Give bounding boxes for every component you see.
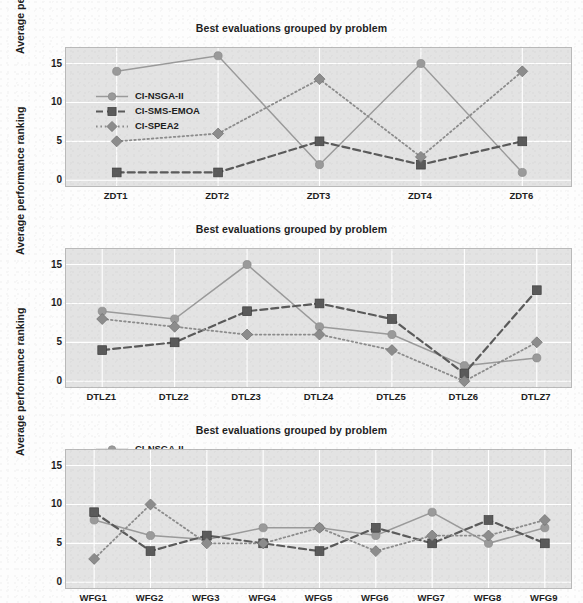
legend: CI-NSGA-IICI-SMS-EMOACI-SPEA2: [95, 88, 200, 133]
y-tick-label: 5: [42, 336, 62, 347]
x-tick-label: ZDT4: [408, 190, 432, 201]
y-axis-ticks: 051015: [38, 47, 62, 187]
x-tick-label: DTLZ5: [376, 391, 406, 402]
legend-label: CI-SPEA2: [135, 120, 179, 131]
plot-area: [65, 449, 572, 589]
x-tick-label: ZDT2: [205, 190, 229, 201]
x-tick-label: DTLZ1: [86, 391, 116, 402]
chart-title: Best evaluations grouped by problem: [0, 424, 583, 436]
y-tick-label: 15: [42, 57, 62, 68]
x-tick-label: ZDT1: [104, 190, 128, 201]
figure-page: Best evaluations grouped by problemAvera…: [0, 0, 583, 603]
chart-title: Best evaluations grouped by problem: [0, 223, 583, 235]
y-tick-label: 0: [42, 174, 62, 185]
legend-diamond-marker-icon: [95, 120, 129, 132]
x-tick-label: WFG9: [530, 592, 557, 603]
y-axis-label: Average performance ranking: [14, 308, 28, 456]
legend-label: CI-SMS-EMOA: [135, 105, 200, 116]
x-tick-label: DTLZ2: [159, 391, 189, 402]
y-tick-label: 0: [42, 576, 62, 587]
x-tick-label: WFG7: [417, 592, 444, 603]
y-tick-label: 15: [42, 258, 62, 269]
legend-label: CI-NSGA-II: [135, 90, 184, 101]
chart-1: Best evaluations grouped by problemAvera…: [0, 0, 583, 201]
y-tick-label: 5: [42, 537, 62, 548]
legend-circle-marker-icon: [95, 90, 129, 102]
legend-item: CI-SMS-EMOA: [95, 103, 200, 118]
y-axis-ticks: 051015: [38, 248, 62, 388]
plot-area: [65, 248, 572, 388]
chart-3: Best evaluations grouped by problemAvera…: [0, 402, 583, 603]
x-axis-ticks: WFG1WFG2WFG3WFG4WFG5WFG6WFG7WFG8WFG9: [65, 592, 572, 603]
y-axis-ticks: 051015: [38, 449, 62, 589]
x-tick-label: WFG6: [361, 592, 388, 603]
y-tick-label: 5: [42, 135, 62, 146]
x-tick-label: WFG2: [136, 592, 163, 603]
x-tick-label: ZDT3: [307, 190, 331, 201]
y-tick-label: 15: [42, 459, 62, 470]
charts-container: Best evaluations grouped by problemAvera…: [0, 0, 583, 603]
chart-2: Best evaluations grouped by problemAvera…: [0, 201, 583, 402]
y-axis-label: Average performance ranking: [14, 0, 28, 54]
x-tick-label: DTLZ4: [304, 391, 334, 402]
x-tick-label: DTLZ7: [521, 391, 551, 402]
x-tick-label: DTLZ3: [231, 391, 261, 402]
y-tick-label: 10: [42, 498, 62, 509]
y-tick-label: 10: [42, 297, 62, 308]
legend-item: CI-SPEA2: [95, 118, 200, 133]
x-tick-label: WFG5: [305, 592, 332, 603]
x-tick-label: ZDT6: [509, 190, 533, 201]
x-tick-label: WFG8: [474, 592, 501, 603]
x-tick-label: WFG1: [79, 592, 106, 603]
y-tick-label: 0: [42, 375, 62, 386]
x-tick-label: WFG3: [192, 592, 219, 603]
chart-title: Best evaluations grouped by problem: [0, 22, 583, 34]
legend-item: CI-NSGA-II: [95, 88, 200, 103]
x-tick-label: DTLZ6: [449, 391, 479, 402]
y-axis-label: Average performance ranking: [14, 107, 28, 255]
x-tick-label: WFG4: [248, 592, 275, 603]
legend-square-marker-icon: [95, 105, 129, 117]
y-tick-label: 10: [42, 96, 62, 107]
